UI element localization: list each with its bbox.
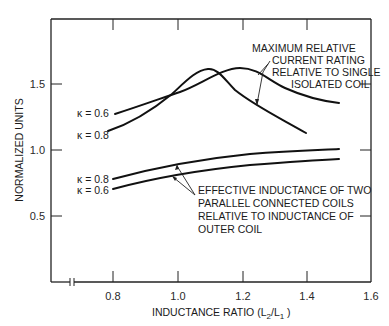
y-tick-labels: 1.5 1.0 0.5 <box>30 78 45 222</box>
x-axis-title: INDUCTANCE RATIO (L2/L1 ) <box>152 306 291 321</box>
x-tick-1.6: 1.6 <box>363 290 378 302</box>
x-tick-1.4: 1.4 <box>299 290 314 302</box>
label-kappa-upper-0.6: κ = 0.6 <box>77 107 109 119</box>
svg-text:RELATIVE TO SINGLE: RELATIVE TO SINGLE <box>272 66 381 78</box>
x-tick-labels: 0.8 1.0 1.2 1.4 1.6 <box>105 290 378 302</box>
svg-text:CURRENT RATING: CURRENT RATING <box>272 54 365 66</box>
y-axis-title: NORMALIZED UNITS <box>13 98 25 201</box>
x-tick-0.8: 0.8 <box>105 290 120 302</box>
svg-text:PARALLEL CONNECTED COILS: PARALLEL CONNECTED COILS <box>198 197 354 209</box>
svg-text:MAXIMUM RELATIVE: MAXIMUM RELATIVE <box>252 42 356 54</box>
label-kappa-upper-0.8: κ = 0.8 <box>77 129 109 141</box>
annotation-current-rating: MAXIMUM RELATIVE CURRENT RATING RELATIVE… <box>252 42 381 106</box>
chart-figure: 0.8 1.0 1.2 1.4 1.6 1.5 1.0 0.5 NORMALIZ… <box>0 0 389 326</box>
svg-text:OUTER COIL: OUTER COIL <box>198 223 262 235</box>
label-kappa-lower-0.6: κ = 0.6 <box>77 184 109 196</box>
x-tick-1.2: 1.2 <box>235 290 250 302</box>
y-tick-1.0: 1.0 <box>30 144 45 156</box>
curve-inductance-kappa-0.8 <box>113 149 339 179</box>
y-tick-0.5: 0.5 <box>30 210 45 222</box>
svg-text:ISOLATED COIL: ISOLATED COIL <box>291 78 370 90</box>
svg-text:EFFECTIVE INDUCTANCE OF TWO: EFFECTIVE INDUCTANCE OF TWO <box>198 184 371 196</box>
svg-text:RELATIVE TO INDUCTANCE OF: RELATIVE TO INDUCTANCE OF <box>198 210 354 222</box>
x-tick-1.0: 1.0 <box>170 290 185 302</box>
annotation-effective-inductance: EFFECTIVE INDUCTANCE OF TWO PARALLEL CON… <box>172 164 371 235</box>
y-tick-1.5: 1.5 <box>30 78 45 90</box>
